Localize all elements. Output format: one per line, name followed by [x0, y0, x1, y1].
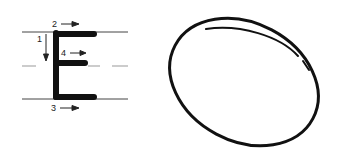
arrow-right-icon [70, 51, 86, 56]
stroke-3-label: 3 [51, 103, 56, 113]
arrow-right-icon [60, 106, 79, 111]
stroke-2-label: 2 [52, 19, 57, 29]
arrow-right-icon [61, 22, 79, 27]
arrow-down-icon [44, 34, 49, 61]
stroke-1-label: 1 [37, 34, 42, 44]
oval-shape [147, 0, 340, 151]
letter-e [56, 33, 94, 97]
letter-e-practice-diagram: 1 2 4 3 [0, 0, 340, 151]
stroke-4-label: 4 [61, 48, 66, 58]
oval-highlight [206, 28, 298, 56]
